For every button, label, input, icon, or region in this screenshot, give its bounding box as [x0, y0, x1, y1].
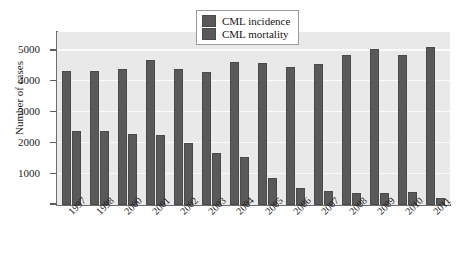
y-axis-tick: 5000 [50, 49, 57, 51]
legend-label: CML mortality [222, 28, 289, 40]
bar-incidence [90, 71, 99, 205]
bar-incidence [118, 69, 127, 205]
y-axis-tick-label: 4000 [18, 74, 40, 86]
bar-incidence [258, 63, 267, 205]
bar-incidence [314, 64, 323, 205]
bar-incidence [146, 60, 155, 205]
y-axis-tick-label: 3000 [18, 105, 40, 117]
y-axis-tick: 1000 [50, 173, 57, 175]
bar-incidence [174, 69, 183, 205]
legend-item: CML mortality [202, 28, 290, 40]
y-axis-tick-label: 5000 [18, 43, 40, 55]
bar-incidence [370, 49, 379, 205]
y-axis-tick: 2000 [50, 142, 57, 144]
legend-swatch-icon [202, 15, 216, 27]
bar-incidence [202, 72, 211, 205]
y-axis-tick-label: 2000 [18, 136, 40, 148]
bar-group [310, 32, 338, 205]
legend-label: CML incidence [222, 15, 290, 27]
bar-group [85, 32, 113, 205]
legend-swatch-icon [202, 28, 216, 40]
bar-incidence [426, 47, 435, 205]
bar-group [57, 32, 85, 205]
y-axis-tick: 0 [50, 203, 57, 205]
chart-legend: CML incidenceCML mortality [196, 10, 299, 45]
y-axis-tick: 4000 [50, 80, 57, 82]
bar-group [282, 32, 310, 205]
bar-group [169, 32, 197, 205]
bar-group [113, 32, 141, 205]
legend-item: CML incidence [202, 15, 290, 27]
plot-area: 010002000300040005000 [57, 32, 450, 205]
bar-group [141, 32, 169, 205]
y-axis-tick-label: 1000 [18, 167, 40, 179]
bar-series-container [57, 32, 450, 205]
bar-group [338, 32, 366, 205]
bar-group [254, 32, 282, 205]
bar-incidence [230, 62, 239, 205]
bar-group [197, 32, 225, 205]
bar-incidence [398, 55, 407, 205]
cml-bar-chart: Number of cases 010002000300040005000 19… [0, 0, 462, 259]
bar-group [366, 32, 394, 205]
bar-incidence [342, 55, 351, 205]
bar-group [394, 32, 422, 205]
bar-incidence [62, 71, 71, 205]
bar-group [225, 32, 253, 205]
bar-incidence [286, 67, 295, 205]
y-axis-tick: 3000 [50, 111, 57, 113]
bar-group [422, 32, 450, 205]
